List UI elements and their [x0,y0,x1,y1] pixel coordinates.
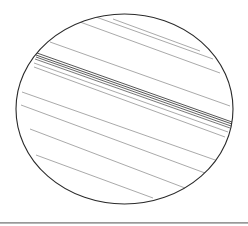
striation-line [36,155,153,198]
ellipse-outline [16,14,233,204]
striation-line [80,22,220,73]
baseline-divider [0,222,248,224]
striation-line [35,59,230,128]
striation-lines [21,17,232,198]
striation-line [37,53,232,122]
striation-line [21,105,205,173]
striation-line [22,92,218,161]
striation-line [34,63,228,132]
striation-line [36,57,231,126]
striation-line [36,55,232,124]
striation-line [96,17,213,59]
striated-ellipse-diagram [0,0,248,226]
striation-line [34,67,225,137]
striation-line [30,129,185,188]
striation-line [113,19,200,51]
